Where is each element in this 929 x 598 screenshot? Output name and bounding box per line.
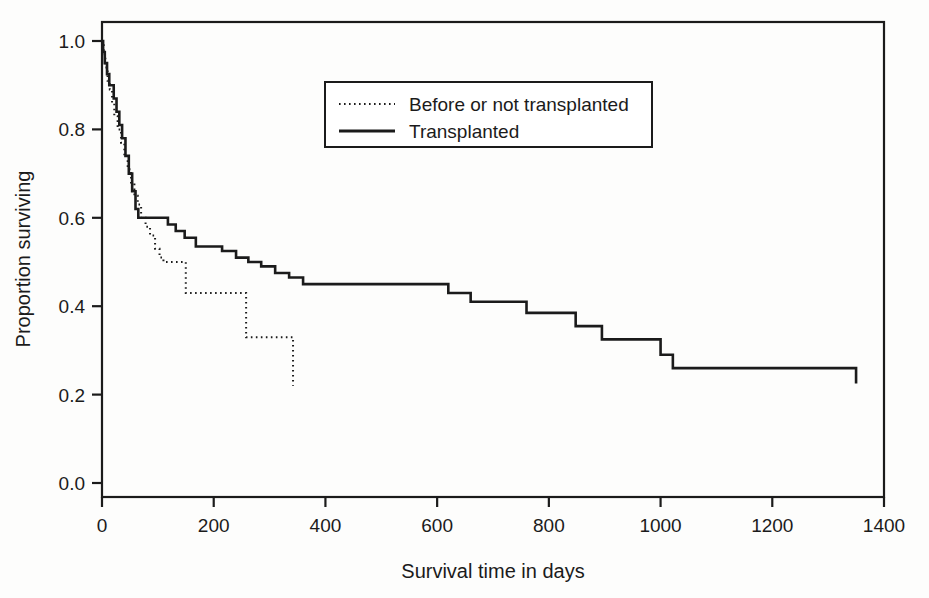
survival-chart: 0200400600800100012001400 0.00.20.40.60.…: [0, 0, 929, 598]
x-tick-label: 800: [533, 515, 565, 536]
series-line: [102, 41, 293, 386]
chart-legend: Before or not transplantedTransplanted: [325, 82, 652, 147]
x-tick-label: 1000: [639, 515, 681, 536]
x-tick-label: 1200: [751, 515, 793, 536]
y-tick-label: 0.0: [59, 473, 85, 494]
x-tick-label: 200: [198, 515, 230, 536]
legend-label: Before or not transplanted: [409, 94, 629, 115]
y-axis-title: Proportion surviving: [12, 171, 34, 348]
y-tick-label: 0.4: [59, 296, 86, 317]
y-tick-label: 0.6: [59, 208, 85, 229]
x-axis-title: Survival time in days: [401, 560, 584, 582]
legend-label: Transplanted: [409, 121, 519, 142]
y-axis-ticks: 0.00.20.40.60.81.0: [59, 31, 102, 494]
x-tick-label: 1400: [863, 515, 905, 536]
x-axis-ticks: 0200400600800100012001400: [97, 497, 905, 536]
y-tick-label: 1.0: [59, 31, 85, 52]
x-tick-label: 600: [421, 515, 453, 536]
x-tick-label: 400: [310, 515, 342, 536]
y-tick-label: 0.2: [59, 385, 85, 406]
x-tick-label: 0: [97, 515, 108, 536]
y-tick-label: 0.8: [59, 119, 85, 140]
figure-container: 0200400600800100012001400 0.00.20.40.60.…: [0, 0, 929, 598]
